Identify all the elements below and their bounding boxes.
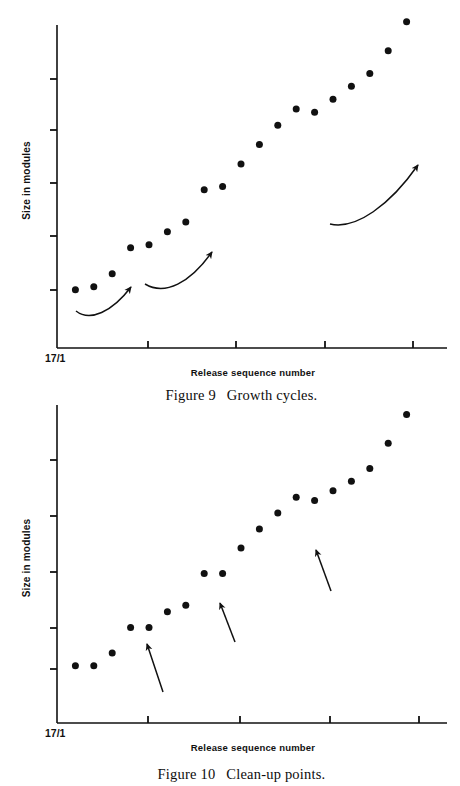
data-point	[127, 244, 134, 251]
data-point	[293, 494, 300, 501]
clean-up-point-arrow-3	[316, 550, 331, 591]
figure-10-plot: 17/1Release sequence numberSize in modul…	[0, 392, 460, 772]
data-point	[366, 70, 373, 77]
data-point	[164, 608, 171, 615]
figure-9-plot: 17/1Release sequence numberSize in modul…	[0, 0, 460, 392]
data-point	[311, 497, 318, 504]
growth-cycle-arrow-2	[145, 252, 212, 288]
data-point	[256, 526, 263, 533]
figure-10-caption: Figure 10Clean-up points.	[0, 749, 460, 786]
data-point	[403, 411, 410, 418]
data-point	[311, 109, 318, 116]
data-point	[330, 96, 337, 103]
data-point	[219, 183, 226, 190]
figure-10-caption-text: Clean-up points.	[226, 766, 325, 782]
data-point	[90, 283, 97, 290]
data-point	[403, 18, 410, 25]
data-point	[182, 602, 189, 609]
figure-10-caption-label: Figure 10	[158, 766, 216, 782]
y-axis-label: Size in modules	[21, 518, 32, 597]
data-point	[256, 141, 263, 148]
data-point	[293, 105, 300, 112]
data-point	[146, 624, 153, 631]
clean-up-point-arrow-1	[147, 644, 163, 692]
clean-up-point-arrow-2	[220, 603, 235, 642]
growth-cycle-arrow-3	[330, 165, 418, 225]
origin-tick-label: 17/1	[45, 352, 66, 364]
data-point-group	[72, 411, 410, 669]
origin-tick-label: 17/1	[45, 727, 66, 739]
data-point	[72, 662, 79, 669]
data-point	[274, 510, 281, 517]
data-point	[238, 160, 245, 167]
data-point	[385, 47, 392, 54]
data-point	[330, 487, 337, 494]
figure-9: 17/1Release sequence numberSize in modul…	[0, 0, 460, 392]
data-point	[90, 662, 97, 669]
data-point	[72, 286, 79, 293]
growth-cycle-arrow-1	[76, 287, 131, 315]
y-axis-label: Size in modules	[21, 141, 32, 220]
data-point	[348, 478, 355, 485]
data-point	[219, 570, 226, 577]
data-point	[366, 465, 373, 472]
data-point	[109, 650, 116, 657]
data-point	[201, 570, 208, 577]
data-point	[385, 440, 392, 447]
data-point	[164, 228, 171, 235]
data-point	[348, 83, 355, 90]
data-point	[109, 270, 116, 277]
data-point	[238, 545, 245, 552]
data-point	[182, 219, 189, 226]
figure-10: 17/1Release sequence numberSize in modul…	[0, 392, 460, 772]
data-point	[127, 624, 134, 631]
data-point	[146, 241, 153, 248]
data-point-group	[72, 18, 410, 293]
data-point	[274, 122, 281, 129]
data-point	[201, 186, 208, 193]
